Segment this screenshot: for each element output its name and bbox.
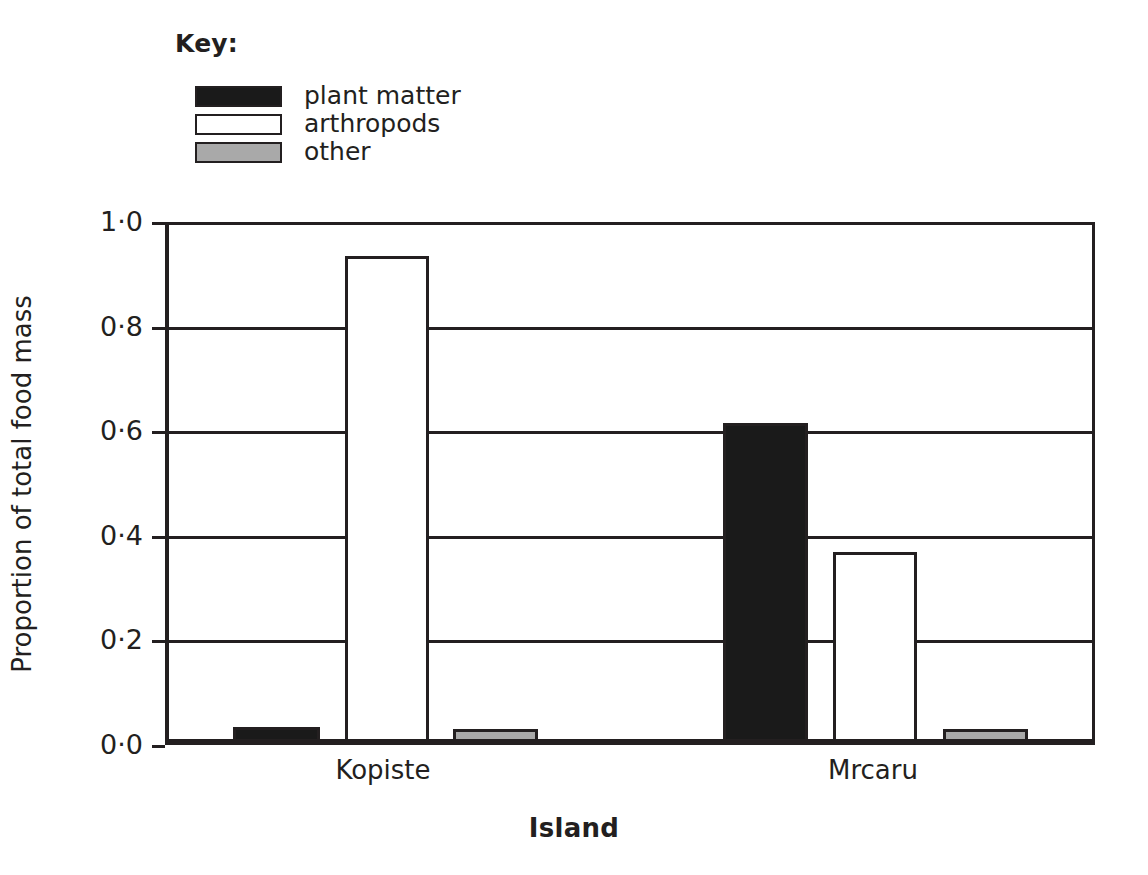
y-axis-tick [152,327,165,330]
legend-label-arthropods: arthropods [304,110,440,138]
y-axis-tick-label: 0·2 [53,626,143,653]
legend-label-plant-matter: plant matter [304,82,461,110]
legend-item-plant-matter: plant matter [195,82,695,110]
legend-swatch-arthropods [195,114,282,135]
legend-item-other: other [195,138,695,166]
x-axis-title: Island [0,812,1148,844]
legend-swatch-plant-matter [195,86,282,107]
y-axis-tick-label: 1·0 [53,208,143,235]
y-axis-tick [152,640,165,643]
legend-item-arthropods: arthropods [195,110,695,138]
legend-title: Key: [175,28,695,60]
y-axis-tick [152,431,165,434]
y-axis-tick-label: 0·6 [53,417,143,444]
x-axis-tick-label-kopiste: Kopiste [335,755,430,785]
bar-chart-figure: Key: plant matter arthropods other Propo… [0,0,1148,875]
y-axis-tick [152,536,165,539]
x-axis-tick-label-mrcaru: Mrcaru [828,755,918,785]
y-axis-tick-label: 0·0 [53,731,143,758]
y-axis-title-text: Proportion of total food mass [9,295,35,673]
legend-swatch-other [195,142,282,163]
y-axis-tick-label: 0·8 [53,313,143,340]
y-axis-tick [152,745,165,748]
chart-legend: Key: plant matter arthropods other [175,28,695,166]
y-axis-tick-label: 0·4 [53,522,143,549]
plot-frame [165,222,1095,745]
y-axis-tick [152,222,165,225]
legend-label-other: other [304,138,371,166]
y-axis-title: Proportion of total food mass [0,222,44,745]
plot-area: 0·00·20·40·60·81·0 [165,222,1095,745]
